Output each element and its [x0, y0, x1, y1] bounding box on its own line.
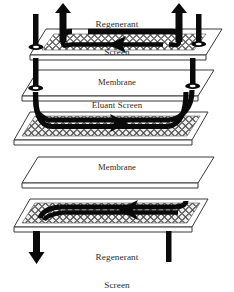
label-eluant-screen: Eluant Screen: [0, 101, 234, 110]
label-regenerant-screen-top-line1: Regenerant: [0, 20, 234, 29]
label-regenerant-screen-bottom: Regenerant Screen: [0, 234, 234, 292]
label-regenerant-screen-top-line2: Screen: [0, 48, 234, 57]
label-membrane-lower: Membrane: [0, 163, 234, 172]
label-regenerant-screen-bottom-line2: Screen: [0, 281, 234, 290]
label-regenerant-screen-top: Regenerant Screen: [0, 1, 234, 67]
label-membrane-upper: Membrane: [0, 78, 234, 87]
label-regenerant-screen-bottom-line1: Regenerant: [0, 253, 234, 262]
